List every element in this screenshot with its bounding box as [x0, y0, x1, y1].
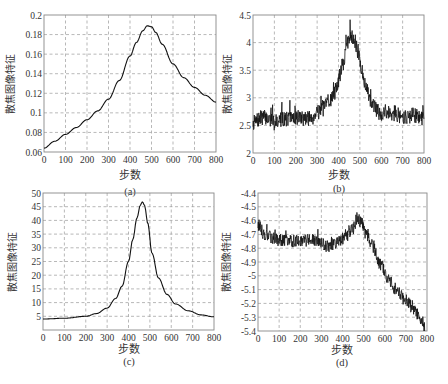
figure-2x2-defocus-feature-plots: 0100200300400500600700800 0.060.080.10.1…	[0, 0, 448, 384]
svg-text:0.12: 0.12	[25, 89, 42, 99]
svg-text:0.14: 0.14	[25, 69, 42, 79]
svg-text:-4.8: -4.8	[241, 244, 256, 254]
svg-text:200: 200	[79, 333, 94, 343]
svg-text:500: 500	[143, 333, 158, 343]
y-tick-labels: -5.4-5.3-5.2-5.1-5-4.9-4.8-4.7-4.6-4.5-4…	[241, 189, 256, 337]
subplot-b: 0100200300400500600700800 22.533.544.5 步…	[221, 11, 431, 196]
svg-text:600: 600	[164, 333, 179, 343]
svg-text:700: 700	[186, 333, 201, 343]
svg-text:200: 200	[289, 156, 304, 166]
svg-text:200: 200	[293, 334, 308, 344]
y-tick-labels: 22.533.544.5	[239, 11, 251, 159]
svg-text:-5.2: -5.2	[241, 299, 256, 309]
grid-lines	[258, 193, 427, 331]
svg-text:30: 30	[32, 243, 42, 253]
subplot-caption: (c)	[123, 356, 135, 368]
x-tick-labels: 0100200300400500600700800	[42, 155, 224, 165]
svg-text:45: 45	[32, 202, 42, 212]
svg-text:700: 700	[187, 155, 202, 165]
svg-text:-5.4: -5.4	[241, 327, 256, 337]
svg-text:300: 300	[314, 334, 329, 344]
svg-text:100: 100	[57, 333, 72, 343]
svg-text:400: 400	[123, 155, 138, 165]
svg-text:0.1: 0.1	[30, 108, 42, 118]
svg-text:400: 400	[335, 334, 350, 344]
subplot-caption: (a)	[124, 186, 136, 198]
svg-text:0: 0	[256, 334, 261, 344]
subplot-c: 0100200300400500600700800 51015202530354…	[6, 189, 221, 369]
svg-text:4: 4	[246, 38, 251, 48]
svg-text:0.16: 0.16	[25, 50, 42, 60]
svg-text:-5.3: -5.3	[241, 313, 256, 323]
subplot-d: 0100200300400500600700800 -5.4-5.3-5.2-5…	[220, 189, 434, 370]
svg-text:0: 0	[41, 333, 46, 343]
svg-text:-4.7: -4.7	[241, 230, 256, 240]
svg-text:0.18: 0.18	[25, 30, 42, 40]
y-axis-label: 散焦图像特征	[6, 232, 18, 292]
svg-text:20: 20	[32, 271, 42, 281]
svg-text:-4.6: -4.6	[241, 216, 256, 226]
svg-text:-4.9: -4.9	[241, 258, 256, 268]
svg-text:300: 300	[310, 156, 325, 166]
svg-text:-4.5: -4.5	[241, 202, 256, 212]
svg-text:2.5: 2.5	[239, 121, 251, 131]
svg-text:800: 800	[420, 334, 435, 344]
x-tick-labels: 0100200300400500600700800	[41, 333, 222, 343]
svg-text:0: 0	[251, 156, 256, 166]
svg-text:600: 600	[378, 334, 393, 344]
subplot-caption: (d)	[336, 357, 349, 369]
svg-text:700: 700	[396, 156, 411, 166]
y-axis-label: 散焦图像特征	[4, 54, 16, 114]
x-axis-label: 步数	[119, 169, 141, 181]
svg-text:300: 300	[100, 333, 115, 343]
svg-text:35: 35	[32, 230, 42, 240]
svg-text:50: 50	[32, 189, 42, 199]
svg-text:100: 100	[267, 156, 282, 166]
data-curve	[258, 212, 425, 331]
svg-text:3: 3	[246, 93, 251, 103]
y-axis-label: 散焦图像特征	[221, 54, 233, 114]
svg-text:2: 2	[246, 149, 251, 159]
x-axis-label: 步数	[118, 343, 140, 355]
svg-text:500: 500	[357, 334, 372, 344]
svg-text:-5: -5	[248, 271, 256, 281]
svg-text:0: 0	[42, 155, 47, 165]
svg-text:500: 500	[353, 156, 368, 166]
svg-text:100: 100	[272, 334, 287, 344]
svg-text:400: 400	[331, 156, 346, 166]
svg-text:0.08: 0.08	[25, 128, 42, 138]
x-axis-label: 步数	[328, 169, 350, 181]
x-axis-label: 步数	[331, 344, 353, 356]
svg-text:200: 200	[80, 155, 95, 165]
svg-text:15: 15	[32, 284, 42, 294]
svg-text:300: 300	[101, 155, 116, 165]
svg-text:5: 5	[36, 312, 41, 322]
svg-text:600: 600	[166, 155, 181, 165]
svg-text:10: 10	[32, 298, 42, 308]
svg-text:600: 600	[374, 156, 389, 166]
x-tick-labels: 0100200300400500600700800	[256, 334, 435, 344]
svg-text:3.5: 3.5	[239, 66, 251, 76]
svg-text:100: 100	[58, 155, 73, 165]
svg-text:40: 40	[32, 216, 42, 226]
svg-text:4.5: 4.5	[239, 11, 251, 21]
svg-text:800: 800	[417, 156, 432, 166]
svg-text:400: 400	[121, 333, 136, 343]
subplot-a: 0100200300400500600700800 0.060.080.10.1…	[4, 11, 223, 199]
svg-text:700: 700	[399, 334, 414, 344]
svg-text:-5.1: -5.1	[241, 285, 256, 295]
data-curve	[253, 20, 424, 131]
svg-text:0.2: 0.2	[30, 11, 42, 21]
data-curve	[43, 202, 214, 319]
svg-text:25: 25	[32, 257, 42, 267]
y-tick-labels: 0.060.080.10.120.140.160.180.2	[25, 11, 42, 158]
x-tick-labels: 0100200300400500600700800	[251, 156, 432, 166]
svg-text:800: 800	[209, 155, 224, 165]
svg-text:0.06: 0.06	[25, 148, 42, 158]
svg-text:500: 500	[144, 155, 159, 165]
y-axis-label: 散焦图像特征	[220, 232, 232, 292]
svg-text:-4.4: -4.4	[241, 189, 256, 199]
y-tick-labels: 5101520253035404550	[32, 189, 42, 322]
svg-text:800: 800	[207, 333, 222, 343]
